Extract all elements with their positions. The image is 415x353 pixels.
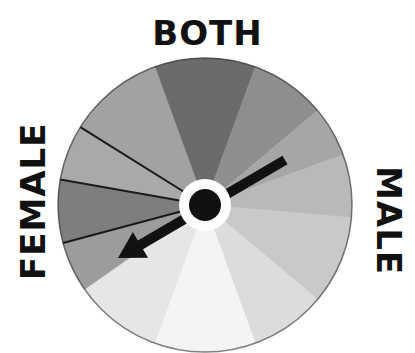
label-female: FEMALE <box>16 123 50 281</box>
label-male: MALE <box>372 166 406 275</box>
label-both: BOTH <box>0 16 415 50</box>
hub-core <box>189 189 221 221</box>
